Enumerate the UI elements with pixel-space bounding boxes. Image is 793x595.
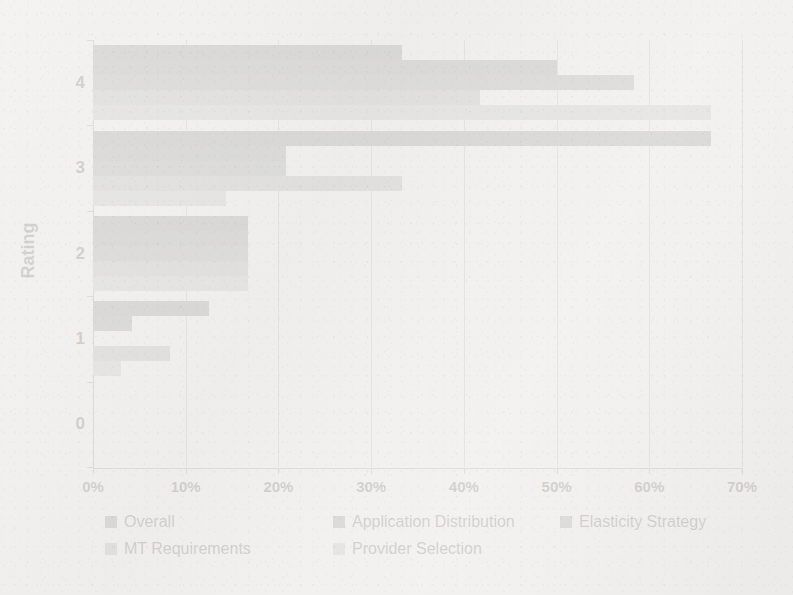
- x-axis-label: 70%: [712, 478, 772, 495]
- y-tick-mark: [87, 467, 93, 468]
- x-axis-label: 30%: [341, 478, 401, 495]
- chart-legend: OverallApplication DistributionElasticit…: [105, 513, 765, 567]
- horizontal-bar-chart: Rating 01234 0%10%20%30%40%50%60%70% Ove…: [0, 0, 793, 595]
- bar: [93, 161, 286, 176]
- legend-swatch-icon: [333, 543, 345, 555]
- bar: [93, 191, 226, 206]
- legend-label: Application Distribution: [352, 513, 515, 531]
- x-axis-label: 20%: [248, 478, 308, 495]
- y-tick-mark: [87, 40, 93, 41]
- x-axis-label: 50%: [527, 478, 587, 495]
- legend-row-1: OverallApplication DistributionElasticit…: [105, 513, 765, 540]
- legend-item[interactable]: Overall: [105, 513, 175, 531]
- legend-swatch-icon: [333, 516, 345, 528]
- legend-item[interactable]: Provider Selection: [333, 540, 482, 558]
- y-axis-label: 2: [45, 245, 85, 262]
- x-axis-label: 10%: [156, 478, 216, 495]
- legend-item[interactable]: Elasticity Strategy: [560, 513, 706, 531]
- grid-line: [742, 40, 743, 467]
- bar: [93, 231, 248, 246]
- bar: [93, 276, 248, 291]
- bar: [93, 216, 248, 231]
- y-tick-mark: [87, 211, 93, 212]
- x-tick-mark: [186, 468, 187, 474]
- legend-swatch-icon: [105, 543, 117, 555]
- bar: [93, 131, 711, 146]
- bar: [93, 60, 557, 75]
- y-axis-tick-labels: 01234: [30, 0, 85, 595]
- y-tick-mark: [87, 382, 93, 383]
- bar: [93, 261, 248, 276]
- bar: [93, 301, 209, 316]
- x-tick-mark: [557, 468, 558, 474]
- bar: [93, 246, 248, 261]
- bar: [93, 146, 286, 161]
- legend-item[interactable]: Application Distribution: [333, 513, 515, 531]
- legend-label: Overall: [124, 513, 175, 531]
- bar: [93, 361, 121, 376]
- y-axis-label: 4: [45, 74, 85, 91]
- grid-line: [557, 40, 558, 467]
- plot-area: [93, 40, 742, 467]
- bar: [93, 105, 711, 120]
- legend-label: Elasticity Strategy: [579, 513, 706, 531]
- x-tick-mark: [93, 468, 94, 474]
- bar: [93, 316, 132, 331]
- y-axis-label: 3: [45, 159, 85, 176]
- x-tick-mark: [742, 468, 743, 474]
- legend-label: Provider Selection: [352, 540, 482, 558]
- bar: [93, 176, 402, 191]
- legend-swatch-icon: [105, 516, 117, 528]
- legend-row-2: MT RequirementsProvider Selection: [105, 540, 765, 567]
- bar: [93, 45, 402, 60]
- x-axis-label: 60%: [619, 478, 679, 495]
- x-tick-mark: [649, 468, 650, 474]
- bar: [93, 346, 170, 361]
- grid-line: [649, 40, 650, 467]
- y-tick-mark: [87, 125, 93, 126]
- y-tick-mark: [87, 296, 93, 297]
- y-axis-label: 0: [45, 415, 85, 432]
- x-axis-label: 0%: [63, 478, 123, 495]
- y-axis-label: 1: [45, 330, 85, 347]
- legend-label: MT Requirements: [124, 540, 251, 558]
- legend-item[interactable]: MT Requirements: [105, 540, 251, 558]
- bar: [93, 75, 634, 90]
- x-axis-line: [93, 468, 743, 469]
- x-axis-label: 40%: [434, 478, 494, 495]
- bar: [93, 90, 480, 105]
- x-tick-mark: [371, 468, 372, 474]
- x-tick-mark: [278, 468, 279, 474]
- x-tick-mark: [464, 468, 465, 474]
- legend-swatch-icon: [560, 516, 572, 528]
